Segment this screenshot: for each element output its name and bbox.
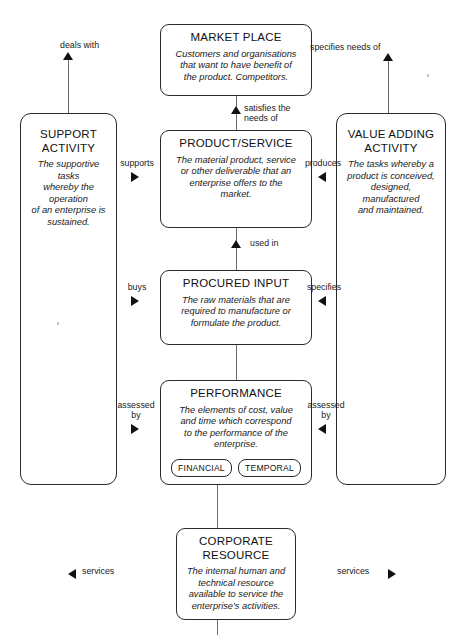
box-title: VALUE ADDING ACTIVITY	[344, 128, 438, 155]
box-performance[interactable]: PERFORMANCE The elements of cost, value …	[160, 380, 312, 485]
box-support-activity[interactable]: SUPPORT ACTIVITY The supportive tasks wh…	[20, 113, 117, 485]
arrowhead-specifies-needs-of	[383, 53, 393, 61]
diagram-canvas: MARKET PLACE Customers and organisations…	[0, 0, 464, 641]
edge-label-services-left: services	[82, 566, 134, 576]
edge-label-used-in: used in	[250, 238, 300, 248]
edge-label-assessed-by-left: assessed by	[110, 400, 162, 421]
box-title: CORPORATE RESOURCE	[184, 535, 288, 562]
edge-label-specifies: specifies	[300, 282, 348, 292]
arrowhead-buys	[131, 296, 139, 306]
arrowhead-specifies	[318, 296, 326, 306]
box-procured-input[interactable]: PROCURED INPUT The raw materials that ar…	[160, 270, 312, 345]
edge-label-buys: buys	[118, 282, 156, 292]
performance-sub-pills: FINANCIAL TEMPORAL	[161, 459, 311, 478]
box-description: The elements of cost, value and time whi…	[168, 405, 304, 451]
arrowhead-deals-with	[63, 52, 73, 60]
edge-label-services-right: services	[337, 566, 389, 576]
box-description: The material product, service or other d…	[168, 155, 304, 201]
connector-product-to-procured	[236, 228, 237, 270]
pill-financial[interactable]: FINANCIAL	[171, 459, 232, 478]
box-description: Customers and organisations that want to…	[168, 49, 304, 84]
arrowhead-satisfies-needs-of	[231, 106, 241, 114]
box-title: PROCURED INPUT	[168, 277, 304, 291]
box-title: SUPPORT ACTIVITY	[28, 128, 109, 155]
box-description: The tasks whereby a product is conceived…	[344, 159, 438, 217]
box-product-service[interactable]: PRODUCT/SERVICE The material product, se…	[160, 130, 312, 228]
edge-label-deals-with: deals with	[60, 40, 130, 50]
arrowhead-services-right	[388, 569, 396, 579]
connector-procured-to-performance	[236, 345, 237, 380]
box-description: The internal human and technical resourc…	[184, 566, 288, 612]
arrowhead-supports	[131, 172, 139, 182]
box-value-adding-activity[interactable]: VALUE ADDING ACTIVITY The tasks whereby …	[336, 113, 446, 485]
pill-temporal[interactable]: TEMPORAL	[238, 459, 301, 478]
scan-artifact	[427, 74, 429, 77]
edge-label-specifies-needs-of: specifies needs of	[310, 42, 410, 52]
arrowhead-used-in	[231, 240, 241, 248]
edge-label-assessed-by-right: assessed by	[300, 400, 352, 421]
arrowhead-assessed-by-left	[131, 424, 139, 434]
box-corporate-resource[interactable]: CORPORATE RESOURCE The internal human an…	[176, 528, 296, 620]
box-description: The supportive tasks whereby the operati…	[28, 159, 109, 229]
arrowhead-produces	[318, 172, 326, 182]
box-title: PERFORMANCE	[168, 387, 304, 401]
edge-label-satisfies-the-needs-of: satisfies the needs of	[244, 103, 314, 124]
box-title: PRODUCT/SERVICE	[168, 137, 304, 151]
box-market-place[interactable]: MARKET PLACE Customers and organisations…	[160, 24, 312, 96]
scan-artifact	[57, 322, 59, 325]
box-description: The raw materials that are required to m…	[168, 295, 304, 330]
arrowhead-services-left	[68, 569, 76, 579]
connector-value-adding-to-marketplace	[388, 58, 389, 113]
arrowhead-assessed-by-right	[318, 424, 326, 434]
connector-support-to-marketplace	[68, 57, 69, 113]
edge-label-supports: supports	[114, 158, 160, 168]
box-title: MARKET PLACE	[168, 31, 304, 45]
edge-label-produces: produces	[300, 158, 346, 168]
